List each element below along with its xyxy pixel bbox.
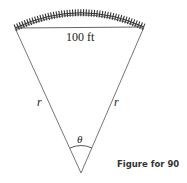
left-radius-label: r [37, 95, 42, 110]
angle-label: θ [77, 133, 82, 145]
right-radius-label: r [114, 95, 119, 110]
chord-line [15, 27, 144, 28]
chord-label: 100 ft [66, 30, 94, 45]
sector-diagram [0, 0, 187, 183]
angle-arc [70, 146, 92, 149]
right-radius-line [81, 27, 144, 173]
figure-caption: Figure for 90 [117, 159, 179, 169]
left-radius-line [15, 28, 81, 173]
